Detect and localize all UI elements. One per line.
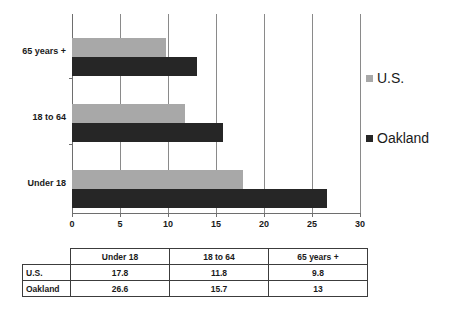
table-cell-oakland-65-plus: 13: [269, 281, 368, 297]
gridline-30: [360, 14, 361, 213]
x-tick-label-10: 10: [153, 219, 183, 229]
x-tick-label-20: 20: [249, 219, 279, 229]
table-cell-oakland-18-to-64: 15.7: [170, 281, 269, 297]
table-row-label-us: U.S.: [23, 265, 71, 281]
bar-oakland-under-18: [72, 189, 327, 208]
legend-item-oakland: Oakland: [366, 130, 429, 146]
x-tick-label-0: 0: [57, 219, 87, 229]
x-tick-mark-15: [216, 213, 217, 217]
x-tick-mark-25: [312, 213, 313, 217]
table-row: U.S. 17.8 11.8 9.8: [23, 265, 368, 281]
table-row: Oakland 26.6 15.7 13: [23, 281, 368, 297]
bar-chart: 051015202530 65 years + 18 to 64 Under 1…: [0, 0, 459, 240]
x-tick-label-15: 15: [201, 219, 231, 229]
x-tick-mark-5: [120, 213, 121, 217]
x-tick-label-30: 30: [345, 219, 375, 229]
plot-area: [72, 14, 360, 213]
table-row-label-oakland: Oakland: [23, 281, 71, 297]
chart-page: 051015202530 65 years + 18 to 64 Under 1…: [0, 0, 459, 319]
data-table: Under 18 18 to 64 65 years + U.S. 17.8 1…: [22, 248, 368, 297]
legend-swatch-oakland-icon: [366, 135, 373, 142]
bar-us-65-plus: [72, 38, 166, 57]
legend-label-us: U.S.: [377, 70, 404, 86]
legend-swatch-us-icon: [366, 75, 373, 82]
x-tick-mark-10: [168, 213, 169, 217]
x-tick-label-5: 5: [105, 219, 135, 229]
table-header-row: Under 18 18 to 64 65 years +: [23, 249, 368, 265]
x-tick-label-25: 25: [297, 219, 327, 229]
table-cell-us-under-18: 17.8: [71, 265, 170, 281]
bar-us-under-18: [72, 170, 243, 189]
bar-oakland-65-plus: [72, 57, 197, 76]
category-label-under-18: Under 18: [0, 178, 66, 188]
legend-item-us: U.S.: [366, 70, 404, 86]
table-cell-oakland-under-18: 26.6: [71, 281, 170, 297]
table-corner-cell: [23, 249, 71, 265]
x-tick-mark-20: [264, 213, 265, 217]
legend-label-oakland: Oakland: [377, 130, 429, 146]
x-tick-mark-0: [72, 213, 73, 217]
table-col-header-18-to-64: 18 to 64: [170, 249, 269, 265]
bar-us-18-to-64: [72, 104, 185, 123]
category-label-18-to-64: 18 to 64: [0, 112, 66, 122]
table-cell-us-65-plus: 9.8: [269, 265, 368, 281]
x-tick-mark-30: [360, 213, 361, 217]
bar-oakland-18-to-64: [72, 123, 223, 142]
table-col-header-65-plus: 65 years +: [269, 249, 368, 265]
table-cell-us-18-to-64: 11.8: [170, 265, 269, 281]
category-label-65-plus: 65 years +: [0, 46, 66, 56]
table-col-header-under-18: Under 18: [71, 249, 170, 265]
